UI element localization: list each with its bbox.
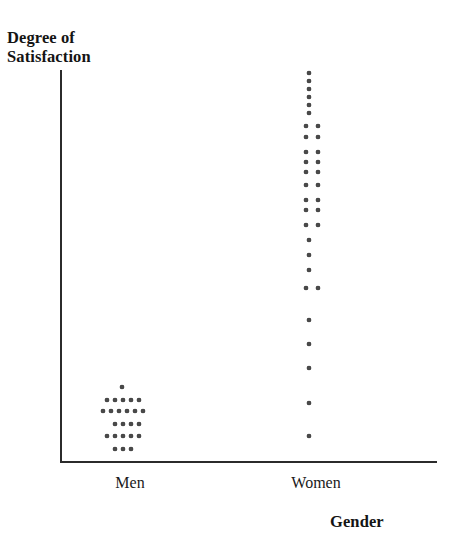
data-point-men-12 xyxy=(141,409,146,414)
x-axis-tick-label-men: Men xyxy=(115,474,144,492)
data-point-women-29 xyxy=(316,286,321,291)
data-point-women-14 xyxy=(316,160,321,165)
data-point-women-12 xyxy=(316,150,321,155)
data-point-women-23 xyxy=(304,223,309,228)
data-point-women-33 xyxy=(307,401,312,406)
data-point-women-9 xyxy=(304,135,309,140)
data-point-women-5 xyxy=(307,103,312,108)
data-point-men-17 xyxy=(105,434,110,439)
data-point-women-8 xyxy=(316,124,321,129)
data-point-men-18 xyxy=(113,434,118,439)
data-point-men-6 xyxy=(137,398,142,403)
data-point-women-25 xyxy=(307,238,312,243)
plot-area xyxy=(0,0,466,555)
data-point-women-20 xyxy=(316,198,321,203)
data-point-women-11 xyxy=(304,150,309,155)
data-point-men-13 xyxy=(113,422,118,427)
data-point-men-11 xyxy=(133,409,138,414)
data-point-men-16 xyxy=(137,422,142,427)
data-point-women-17 xyxy=(304,183,309,188)
data-point-men-8 xyxy=(109,409,114,414)
data-point-women-18 xyxy=(316,183,321,188)
data-point-men-20 xyxy=(129,434,134,439)
x-axis-tick-label-women: Women xyxy=(291,474,340,492)
data-point-men-22 xyxy=(113,447,118,452)
data-point-women-34 xyxy=(307,434,312,439)
data-point-women-2 xyxy=(307,79,312,84)
data-point-men-2 xyxy=(105,398,110,403)
data-point-women-26 xyxy=(307,253,312,258)
data-point-women-3 xyxy=(307,87,312,92)
data-point-men-24 xyxy=(129,447,134,452)
data-point-women-19 xyxy=(304,198,309,203)
data-point-women-16 xyxy=(316,170,321,175)
dotplot-figure: Degree of Satisfaction Men Women Gender xyxy=(0,0,466,555)
data-point-women-28 xyxy=(304,286,309,291)
data-point-women-31 xyxy=(307,342,312,347)
data-point-women-27 xyxy=(307,268,312,273)
data-point-women-15 xyxy=(304,170,309,175)
data-point-men-9 xyxy=(117,409,122,414)
data-point-men-1 xyxy=(120,385,125,390)
data-point-women-1 xyxy=(307,71,312,76)
data-point-women-24 xyxy=(316,223,321,228)
data-point-men-15 xyxy=(129,422,134,427)
data-point-men-23 xyxy=(121,447,126,452)
data-point-women-13 xyxy=(304,160,309,165)
data-point-men-19 xyxy=(121,434,126,439)
data-point-men-10 xyxy=(125,409,130,414)
data-point-men-7 xyxy=(101,409,106,414)
data-point-women-7 xyxy=(304,124,309,129)
data-point-men-21 xyxy=(137,434,142,439)
data-point-men-4 xyxy=(121,398,126,403)
x-axis-title: Gender xyxy=(330,512,384,531)
data-point-men-3 xyxy=(113,398,118,403)
data-point-women-30 xyxy=(307,318,312,323)
data-point-women-10 xyxy=(316,135,321,140)
data-point-women-4 xyxy=(307,95,312,100)
data-point-women-6 xyxy=(307,111,312,116)
data-point-men-5 xyxy=(129,398,134,403)
data-point-women-21 xyxy=(304,208,309,213)
data-point-women-32 xyxy=(307,366,312,371)
data-point-women-22 xyxy=(316,208,321,213)
data-point-men-14 xyxy=(121,422,126,427)
